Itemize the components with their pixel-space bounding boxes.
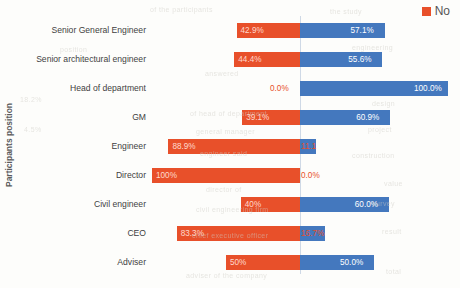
bar-row: Engineer88.9%11.1 bbox=[0, 132, 460, 161]
diverging-bar-chart: Participants position No Senior General … bbox=[0, 0, 460, 288]
bar-label-yes: 60.0% bbox=[355, 197, 378, 212]
bar-label-no: 50% bbox=[230, 255, 246, 270]
bar-group: 88.9%11.1 bbox=[0, 132, 460, 161]
scan-artifact-text: of the participants bbox=[150, 6, 213, 13]
bar-label-no: 88.9% bbox=[172, 139, 195, 154]
bar-group: 83.3%16.7% bbox=[0, 219, 460, 248]
bar-label-no: 40% bbox=[245, 197, 261, 212]
bar-row: Adviser50%50.0% bbox=[0, 248, 460, 277]
bar-label-yes: 16.7% bbox=[301, 226, 324, 241]
bar-row: Head of department0.0%100.0% bbox=[0, 74, 460, 103]
bar-label-yes: 11.1 bbox=[301, 139, 316, 154]
bar-label-no: 39.1% bbox=[246, 110, 269, 125]
bar-label-no: 42.9% bbox=[241, 23, 264, 38]
legend-swatch-no bbox=[422, 7, 431, 16]
bar-row: Senior architectural engineer44.4%55.6% bbox=[0, 45, 460, 74]
bar-group: 40%60.0% bbox=[0, 190, 460, 219]
bar-group: 42.9%57.1% bbox=[0, 16, 460, 45]
bar-group: 44.4%55.6% bbox=[0, 45, 460, 74]
bar-group: 0.0%100.0% bbox=[0, 74, 460, 103]
scan-artifact-text: the study bbox=[330, 8, 362, 15]
bar-row: GM39.1%60.9% bbox=[0, 103, 460, 132]
bar-row: Civil engineer40%60.0% bbox=[0, 190, 460, 219]
bar-label-no: 83.3% bbox=[181, 226, 204, 241]
bar-row: Director100%0.0% bbox=[0, 161, 460, 190]
bar-label-yes: 55.6% bbox=[348, 52, 371, 67]
bar-label-yes: 0.0% bbox=[301, 168, 320, 183]
bar-label-yes: 57.1% bbox=[351, 23, 374, 38]
bar-row: CEO83.3%16.7% bbox=[0, 219, 460, 248]
bar-label-no: 100% bbox=[156, 168, 177, 183]
bar-row: Senior General Engineer42.9%57.1% bbox=[0, 16, 460, 45]
bar-group: 100%0.0% bbox=[0, 161, 460, 190]
bar-group: 50%50.0% bbox=[0, 248, 460, 277]
bar-label-yes: 100.0% bbox=[414, 81, 442, 96]
plot-area: Senior General Engineer42.9%57.1%Senior … bbox=[0, 16, 460, 278]
bar-label-no: 0.0% bbox=[270, 81, 289, 96]
bar-label-yes: 50.0% bbox=[340, 255, 363, 270]
bar-group: 39.1%60.9% bbox=[0, 103, 460, 132]
bar-label-no: 44.4% bbox=[238, 52, 261, 67]
bar-label-yes: 60.9% bbox=[356, 110, 379, 125]
